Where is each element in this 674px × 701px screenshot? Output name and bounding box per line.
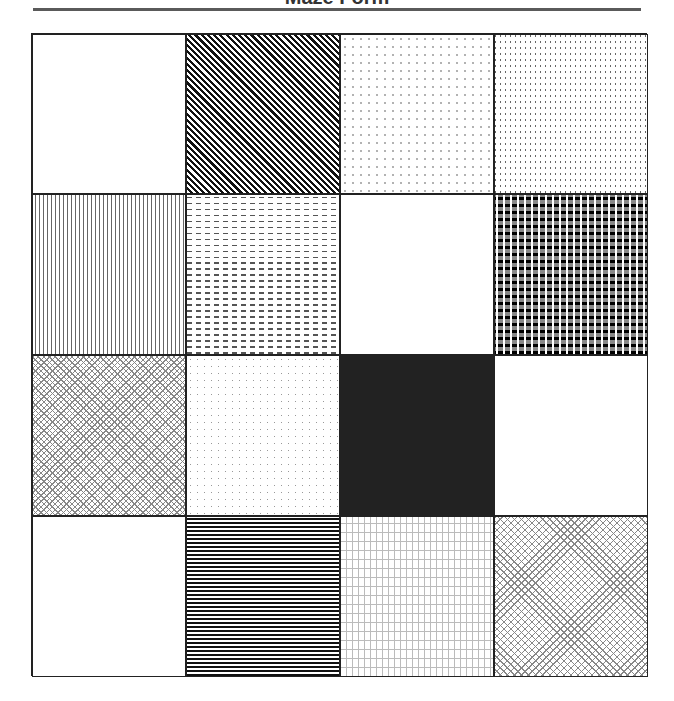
cell-r2-c4-checkerboard[interactable] xyxy=(494,194,648,355)
title-divider xyxy=(33,8,641,11)
cell-r1-c1-blank[interactable] xyxy=(32,34,186,194)
cell-r2-c1-vertical-lines[interactable] xyxy=(32,194,186,355)
cell-r4-c1-blank[interactable] xyxy=(32,516,186,677)
cell-r3-c1-crosshatch[interactable] xyxy=(32,355,186,516)
cell-r1-c3-sparse-dots[interactable] xyxy=(340,34,494,194)
cell-r2-c3-blank[interactable] xyxy=(340,194,494,355)
page-title: Maze Form xyxy=(0,0,674,7)
pattern-grid xyxy=(31,33,647,676)
cell-r3-c3-dark-weave[interactable] xyxy=(340,355,494,516)
cell-r4-c2-horizontal-lines[interactable] xyxy=(186,516,340,677)
cell-r4-c3-grid[interactable] xyxy=(340,516,494,677)
cell-r3-c4-blank[interactable] xyxy=(494,355,648,516)
cell-r2-c2-horizontal-dashes[interactable] xyxy=(186,194,340,355)
cell-r4-c4-crosshatch[interactable] xyxy=(494,516,648,677)
cell-r3-c2-fine-dots[interactable] xyxy=(186,355,340,516)
cell-r1-c2-diagonal-stripes[interactable] xyxy=(186,34,340,194)
cell-r1-c4-vertical-dashes[interactable] xyxy=(494,34,648,194)
